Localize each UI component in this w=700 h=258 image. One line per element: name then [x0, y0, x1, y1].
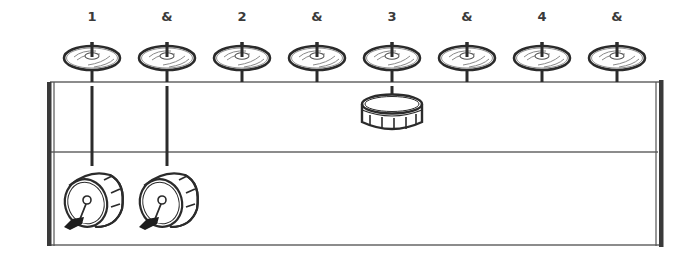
bass-drum-icon	[135, 173, 198, 231]
note-stems	[92, 86, 392, 166]
bass-drum-icon	[60, 173, 123, 231]
staff-lines	[50, 82, 660, 245]
hihat-cymbal-icon	[214, 42, 270, 82]
left-barline	[47, 82, 54, 246]
hihat-cymbal-icon	[139, 42, 195, 82]
groove-staff	[0, 0, 700, 258]
hihat-cymbal-icon	[514, 42, 570, 82]
right-final-barline	[656, 80, 664, 247]
hihat-cymbal-icon	[64, 42, 120, 82]
hihat-cymbal-icon	[439, 42, 495, 82]
hihat-cymbal-icon	[289, 42, 345, 82]
hihat-cymbal-icon	[364, 42, 420, 82]
hihat-cymbal-icon	[589, 42, 645, 82]
snare-drum-icon	[362, 95, 422, 131]
hihat-row	[64, 42, 645, 82]
